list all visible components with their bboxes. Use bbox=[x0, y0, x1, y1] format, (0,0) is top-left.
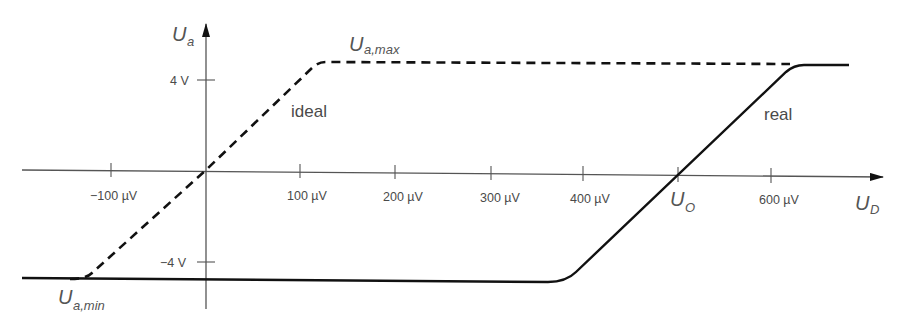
x-axis-label: U D bbox=[855, 192, 879, 217]
svg-text:a,min: a,min bbox=[73, 298, 105, 313]
real-label: real bbox=[764, 105, 792, 124]
x-axis bbox=[22, 170, 883, 177]
y-tick-label-minus4v: −4 V bbox=[160, 256, 187, 270]
x-tick-label-uo: U O bbox=[670, 188, 695, 215]
svg-text:a: a bbox=[187, 34, 194, 49]
x-tick-label: 400 µV bbox=[570, 192, 611, 206]
y-axis-label: U a bbox=[172, 23, 194, 49]
x-tick-label: 100 µV bbox=[287, 189, 328, 203]
svg-text:U: U bbox=[172, 23, 187, 45]
x-tick-label: 200 µV bbox=[383, 190, 424, 204]
svg-text:U: U bbox=[349, 33, 364, 55]
ideal-label: ideal bbox=[291, 102, 327, 121]
svg-text:D: D bbox=[870, 202, 879, 217]
svg-text:a,max: a,max bbox=[364, 42, 400, 57]
x-tick-label: −100 µV bbox=[90, 189, 138, 203]
svg-text:U: U bbox=[58, 286, 73, 308]
x-tick-label: 600 µV bbox=[759, 193, 800, 207]
svg-text:U: U bbox=[855, 192, 870, 214]
svg-text:O: O bbox=[685, 200, 695, 215]
ua-max-label: U a,max bbox=[349, 33, 400, 57]
svg-text:U: U bbox=[670, 188, 685, 210]
transfer-characteristic-diagram: U a U D 4 V −4 V −100 µV 100 µV 200 µV 3… bbox=[0, 0, 899, 331]
ua-min-label: U a,min bbox=[58, 286, 105, 313]
y-tick-label-4v: 4 V bbox=[170, 74, 189, 88]
x-tick-label: 300 µV bbox=[480, 191, 521, 205]
